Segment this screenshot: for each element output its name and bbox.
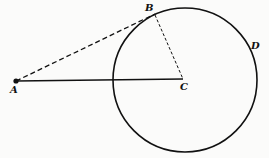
- segment-bc-radius: [155, 15, 183, 79]
- segment-ac: [16, 79, 183, 81]
- geometry-diagram: A B C D: [0, 0, 269, 158]
- label-b: B: [145, 2, 153, 13]
- diagram-canvas: [0, 0, 269, 158]
- segment-ab-tangent: [16, 14, 155, 81]
- label-d: D: [251, 40, 260, 51]
- label-c: C: [180, 81, 188, 92]
- point-a-dot: [13, 78, 18, 83]
- label-a: A: [10, 84, 18, 95]
